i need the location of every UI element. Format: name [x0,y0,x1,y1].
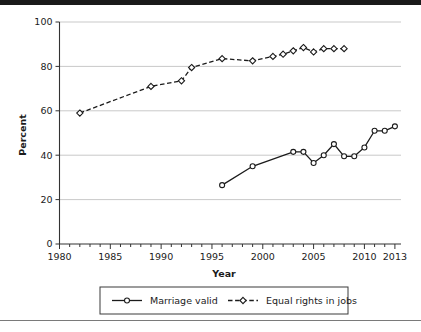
x-tick-label-1980: 1980 [47,251,71,262]
data-point-0-2011 [372,128,377,133]
x-tick-label-1985: 1985 [98,251,122,262]
legend-marker-0 [125,298,130,303]
data-point-1-2007 [331,46,337,52]
axis-layer [56,22,402,249]
y-axis-title: Percent [17,114,28,156]
data-point-0-2012 [382,128,387,133]
data-point-0-2007 [331,142,336,147]
chart-page: 020406080100 198019851990199520002005201… [0,0,421,332]
xtick-label-layer: 19801985199019952000200520102013 [47,251,407,262]
data-point-1-2004 [300,44,306,50]
data-point-0-1999 [250,164,255,169]
data-point-1-1993 [189,64,195,70]
y-tick-label-100: 100 [34,16,52,27]
data-point-0-2006 [321,153,326,158]
y-tick-label-60: 60 [40,105,52,116]
y-tick-label-20: 20 [40,194,52,205]
data-point-1-1996 [219,56,225,62]
x-tick-label-2005: 2005 [301,251,325,262]
data-point-0-2008 [342,154,347,159]
data-point-1-2005 [310,49,316,55]
data-point-1-1989 [148,83,154,89]
line-chart-figure: 020406080100 198019851990199520002005201… [0,0,421,332]
data-point-0-1996 [220,183,225,188]
series-line-0 [222,126,395,185]
data-point-1-2001 [270,53,276,59]
data-point-0-2009 [352,154,357,159]
data-point-0-2013 [392,124,397,129]
data-point-1-2002 [280,51,286,57]
x-axis-title: Year [211,268,236,279]
data-point-1-2006 [321,46,327,52]
y-tick-label-40: 40 [40,150,52,161]
legend-label-0: Marriage valid [150,295,218,306]
chart-legend: Marriage validEqual rights in jobs [100,287,357,314]
legend-label-1: Equal rights in jobs [266,295,357,306]
x-tick-label-1995: 1995 [200,251,224,262]
series-marriage-valid [220,124,398,188]
data-point-0-2010 [362,145,367,150]
data-point-1-1999 [250,58,256,64]
data-point-0-2003 [291,149,296,154]
y-tick-label-0: 0 [46,238,52,249]
x-tick-label-1990: 1990 [149,251,173,262]
x-tick-label-2013: 2013 [383,251,407,262]
data-point-0-2004 [301,149,306,154]
grid-layer [60,22,402,200]
x-tick-label-2010: 2010 [352,251,376,262]
y-tick-label-80: 80 [40,61,52,72]
data-point-0-2005 [311,160,316,165]
series-equal-rights-in-jobs [77,44,347,116]
page-bottom-rule [0,320,421,321]
x-tick-label-2000: 2000 [251,251,275,262]
data-point-1-2008 [341,46,347,52]
series-line-1 [80,48,344,113]
data-point-1-2003 [290,48,296,54]
ytick-label-layer: 020406080100 [34,16,52,249]
